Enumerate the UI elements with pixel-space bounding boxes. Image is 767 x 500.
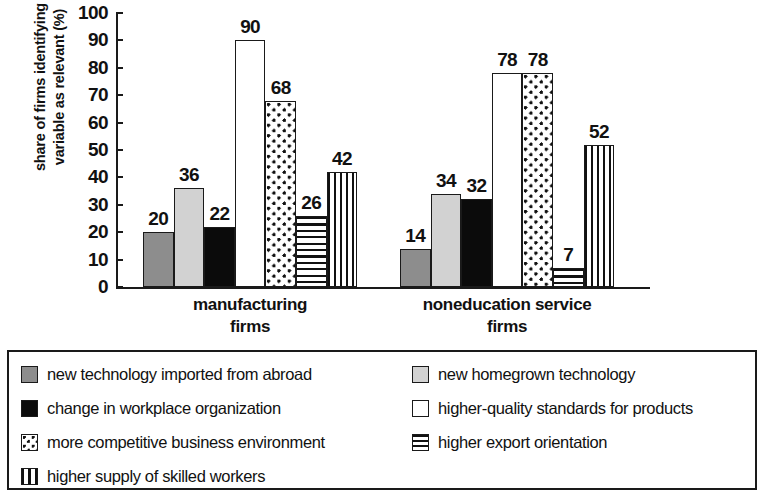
legend-swatch-icon [21,366,38,383]
legend-item[interactable]: more competitive business environment [21,429,325,455]
y-axis-title-line-1: share of firms identifying [31,0,50,217]
bar [553,268,584,287]
bar-chart: share of firms identifying variable as r… [0,0,767,345]
x-axis-line [116,287,650,289]
legend-swatch-icon [412,400,429,417]
category-label-line-2: firms [100,316,400,338]
legend-swatch-icon [412,434,429,451]
y-axis-tick-label: 90 [62,30,108,49]
legend-item-label: higher-quality standards for products [438,399,693,418]
category-label-line-1: manufacturing [100,294,400,316]
legend-item[interactable]: higher export orientation [412,429,607,455]
y-axis-tick-label: 70 [62,85,108,104]
bar [296,216,327,287]
y-axis-tick-label: 80 [62,58,108,77]
category-label-line-1: noneducation service [357,294,657,316]
legend-swatch-icon [21,434,38,451]
category-label-manufacturing: manufacturing firms [100,294,400,338]
bar [400,249,431,287]
y-axis-tick-label: 40 [62,167,108,186]
bar-value-label: 78 [513,50,562,69]
bar [461,199,492,287]
legend-item-label: higher supply of skilled workers [47,467,265,486]
chart-legend: new technology imported from abroadchang… [7,350,757,490]
y-axis-tick-label: 20 [62,222,108,241]
bar-value-label: 36 [165,165,214,184]
legend-item-label: new homegrown technology [438,365,635,384]
legend-item[interactable]: change in workplace organization [21,395,281,421]
y-axis-tick-label: 60 [62,113,108,132]
bar [492,73,523,287]
legend-item-label: new technology imported from abroad [47,365,312,384]
bar-value-label: 68 [256,78,305,97]
legend-swatch-icon [412,366,429,383]
y-axis-tick-label: 30 [62,195,108,214]
bar [431,194,462,287]
legend-swatch-icon [21,468,38,485]
legend-item[interactable]: higher-quality standards for products [412,395,693,421]
legend-item-label: higher export orientation [438,433,607,452]
plot-area: 203622906826421434327878752 [118,13,650,287]
legend-item[interactable]: higher supply of skilled workers [21,463,265,489]
category-label-line-2: firms [357,316,657,338]
legend-item-label: more competitive business environment [47,433,325,452]
bar [584,145,615,287]
legend-item[interactable]: new technology imported from abroad [21,361,312,387]
legend-item-label: change in workplace organization [47,399,281,418]
bar [327,172,358,287]
category-label-noneducation-service: noneducation service firms [357,294,657,338]
y-axis-tick-label: 10 [62,250,108,269]
y-axis-tick-label: 50 [62,140,108,159]
bar-value-label: 42 [318,149,367,168]
bar-value-label: 90 [226,17,275,36]
bar [204,227,235,287]
legend-item[interactable]: new homegrown technology [412,361,635,387]
y-axis-tick-label: 100 [62,3,108,22]
legend-swatch-icon [21,400,38,417]
bar [143,232,174,287]
bar-value-label: 52 [575,122,624,141]
